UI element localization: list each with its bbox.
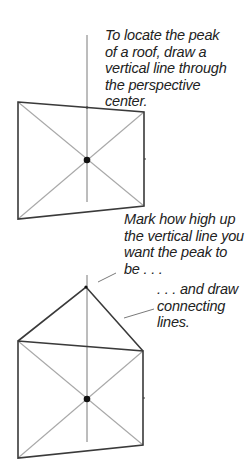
rectangle-outline (18, 102, 144, 219)
peak-point (84, 285, 87, 288)
rectangle-outline (18, 341, 143, 458)
figure-roof (18, 273, 154, 458)
caption-step3: . . . and draw connecting lines. (157, 281, 238, 331)
leader-line-peak (98, 273, 116, 282)
diagonal-line (18, 112, 144, 219)
perspective-center-dot (84, 157, 91, 164)
roof-lines (18, 287, 143, 351)
diagonal-line (18, 341, 143, 445)
caption-step2: Mark how high up the vertical line you w… (124, 211, 244, 277)
perspective-center-dot (84, 396, 91, 403)
caption-step1: To locate the peak of a roof, draw a ver… (105, 27, 227, 110)
leader-line-roof (124, 309, 154, 318)
diagonal-line (18, 351, 143, 458)
diagonal-line (18, 102, 144, 206)
